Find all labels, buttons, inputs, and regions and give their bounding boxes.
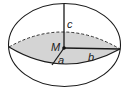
label-b: b <box>88 51 94 63</box>
label-a: a <box>58 54 64 66</box>
label-m: M <box>51 41 61 53</box>
center-point <box>62 46 66 50</box>
ellipsoid-diagram: c M a b <box>0 0 128 89</box>
label-c: c <box>67 18 73 30</box>
